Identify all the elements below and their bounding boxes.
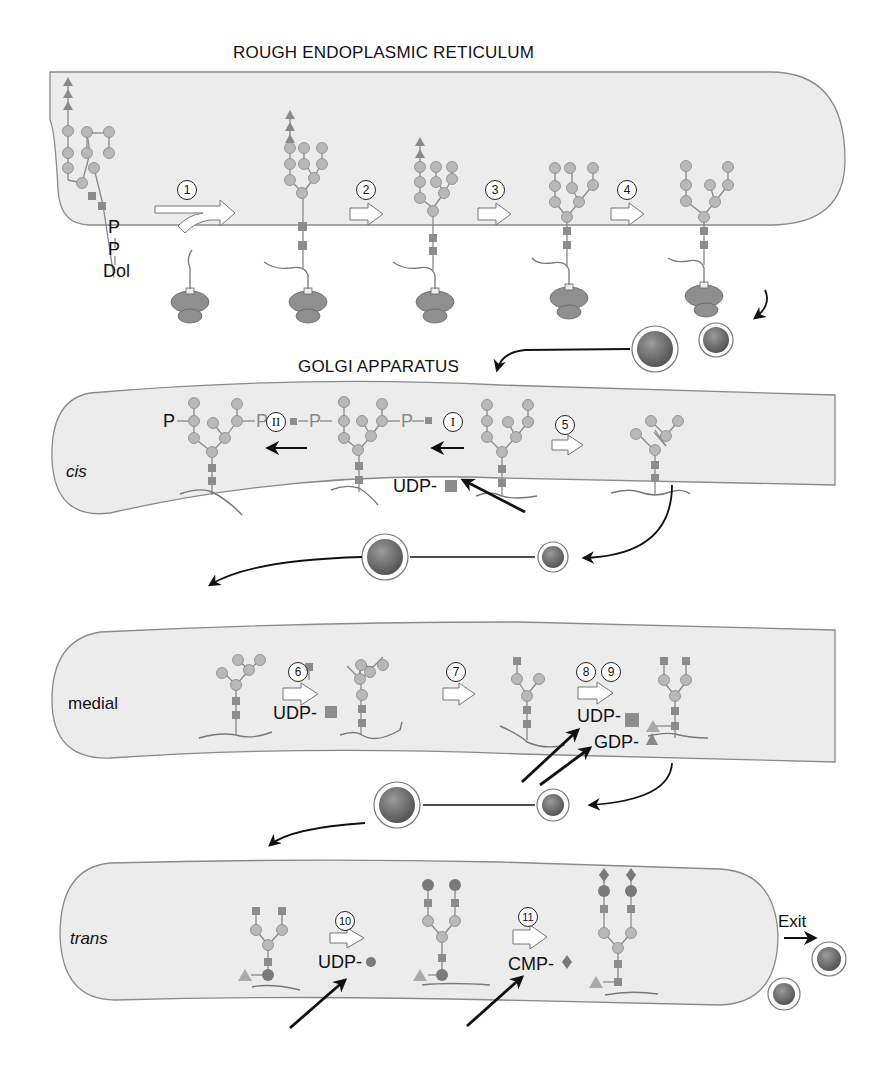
phosphate-label-2: P xyxy=(108,240,120,258)
step-4-badge: 4 xyxy=(617,180,637,200)
udp-medial-6-label: UDP- xyxy=(273,704,317,722)
step-6-badge: 6 xyxy=(288,662,308,682)
step-1-badge: 1 xyxy=(177,180,197,200)
trans-compartment xyxy=(60,860,778,1005)
udp-cis-label: UDP- xyxy=(393,477,437,495)
er-title: ROUGH ENDOPLASMIC RETICULUM xyxy=(233,44,534,61)
ribosome-4 xyxy=(532,258,588,319)
step-3-badge: 3 xyxy=(485,180,505,200)
vesicle-cis-1 xyxy=(538,542,568,572)
cis-label: cis xyxy=(66,463,87,480)
reaction-II-badge: II xyxy=(266,412,286,432)
vesicle-exit-2 xyxy=(768,978,800,1010)
vesicle-cis-2 xyxy=(362,534,408,580)
cis-phosphate-left: P xyxy=(163,412,175,430)
vesicle-medial-1 xyxy=(537,789,569,821)
cmp-trans-11-label: CMP- xyxy=(508,955,554,973)
udp-medial-8-label: UDP- xyxy=(577,707,621,725)
step-10-badge: 10 xyxy=(335,911,355,931)
exit-label: Exit xyxy=(778,913,806,930)
cis-phosphate-mid2: P xyxy=(309,412,321,430)
reaction-I-badge: I xyxy=(443,412,463,432)
step-11-badge: 11 xyxy=(518,907,538,927)
ribosome-3 xyxy=(393,262,454,323)
vesicle-er-1 xyxy=(699,323,733,357)
ribosome-1 xyxy=(171,250,209,323)
golgi-title: GOLGI APPARATUS xyxy=(298,358,459,375)
gdp-medial-9-label: GDP- xyxy=(594,733,639,751)
udp-trans-10-label: UDP- xyxy=(318,953,362,971)
ribosome-2 xyxy=(264,262,327,323)
vesicle-er-2 xyxy=(632,326,678,372)
udp-input-arrow-cis xyxy=(463,480,525,512)
step-9-badge: 9 xyxy=(601,662,621,682)
ribosome-5 xyxy=(668,258,723,317)
glycosylation-diagram xyxy=(0,0,889,1077)
vesicle-exit-1 xyxy=(812,942,846,976)
phosphate-label-1: P xyxy=(108,218,120,236)
medial-label: medial xyxy=(68,695,118,712)
vesicle-medial-2 xyxy=(374,782,420,828)
step-8-badge: 8 xyxy=(576,662,596,682)
dolichol-label: Dol xyxy=(103,262,130,280)
step-5-badge: 5 xyxy=(555,415,575,435)
trans-label: trans xyxy=(70,930,108,947)
er-compartment xyxy=(50,72,845,225)
step-7-badge: 7 xyxy=(446,662,466,682)
cis-phosphate-right: P xyxy=(401,412,413,430)
step-2-badge: 2 xyxy=(356,180,376,200)
